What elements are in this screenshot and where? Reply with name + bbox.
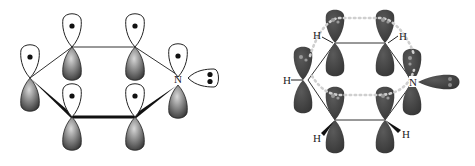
electron-dot [27,54,32,59]
nitrogen-lone-pair-lobe [418,75,460,89]
ring-bonds [308,43,410,120]
hydrogen-label: H [283,74,291,86]
nitrogen-label: N [174,73,182,85]
pyridine-orbital-figure: N [0,0,475,166]
hydrogen-label: H [313,132,321,144]
ring-bonds-front [30,78,176,119]
hydrogen-label: H [313,29,321,41]
electron-dot [207,72,212,77]
electron-dot [69,93,74,98]
left-diagram: N [21,14,219,151]
nitrogen-label: N [409,76,417,88]
electron-dot [132,23,137,28]
electron-dot [69,23,74,28]
electron-dot [132,93,137,98]
electron-dot [207,79,212,84]
right-diagram: H H H H H N [283,10,460,154]
electron-dot [175,53,180,58]
hydrogen-label: H [402,128,410,140]
hydrogen-label: H [399,30,407,42]
p-orbital-c1 [21,45,40,112]
ring-bonds-back [30,47,176,78]
nitrogen-lone-pair [188,69,219,87]
